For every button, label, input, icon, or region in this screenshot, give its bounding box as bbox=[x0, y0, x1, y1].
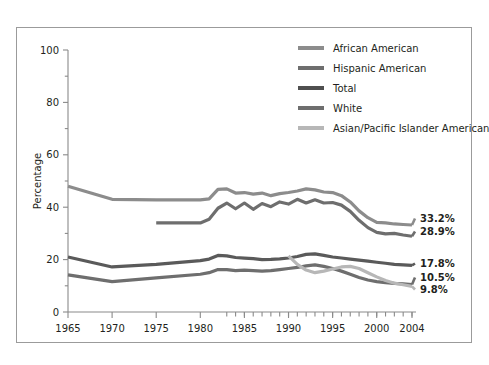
end-label-0: 33.2% bbox=[420, 213, 455, 224]
x-tick-label: 1970 bbox=[99, 323, 124, 334]
y-tick-label: 100 bbox=[40, 45, 59, 56]
y-tick-label: 20 bbox=[46, 254, 59, 265]
end-label-2: 17.8% bbox=[420, 258, 455, 269]
end-label-1: 28.9% bbox=[420, 226, 455, 237]
x-tick-label: 2004 bbox=[399, 323, 424, 334]
end-label-leader-3 bbox=[412, 278, 415, 285]
x-tick-label: 1990 bbox=[276, 323, 301, 334]
y-tick-label: 0 bbox=[53, 307, 59, 318]
figure-root: 0204060801001965197019751980198519901995… bbox=[0, 0, 489, 365]
x-tick-label: 1975 bbox=[143, 323, 168, 334]
x-tick-label: 1985 bbox=[232, 323, 257, 334]
end-label-3: 10.5% bbox=[420, 272, 455, 283]
end-label-leader-0 bbox=[412, 219, 415, 226]
legend-label-0: African American bbox=[333, 43, 419, 54]
end-label-leader-4 bbox=[412, 286, 415, 289]
legend-label-2: Total bbox=[332, 83, 356, 94]
legend-label-3: White bbox=[333, 103, 362, 114]
x-tick-label: 1965 bbox=[55, 323, 80, 334]
x-tick-label: 2000 bbox=[364, 323, 389, 334]
x-tick-label: 1995 bbox=[320, 323, 345, 334]
end-label-leaders bbox=[412, 219, 415, 290]
axes-group: 0204060801001965197019751980198519901995… bbox=[40, 45, 425, 334]
legend-label-4: Asian/Pacific Islander American bbox=[333, 123, 489, 134]
legend-label-1: Hispanic American bbox=[333, 63, 426, 74]
x-tick-label: 1980 bbox=[188, 323, 213, 334]
y-axis-title-group: Percentage bbox=[32, 153, 43, 209]
line-chart: 0204060801001965197019751980198519901995… bbox=[0, 0, 489, 365]
series-group bbox=[68, 186, 412, 286]
y-tick-label: 60 bbox=[46, 149, 59, 160]
series-line-2 bbox=[68, 254, 412, 267]
series-line-1 bbox=[156, 199, 412, 236]
end-label-leader-2 bbox=[412, 264, 415, 266]
legend-group: African AmericanHispanic AmericanTotalWh… bbox=[298, 43, 489, 134]
end-label-4: 9.8% bbox=[420, 284, 448, 295]
y-tick-label: 40 bbox=[46, 202, 59, 213]
y-axis-title: Percentage bbox=[32, 153, 43, 209]
end-labels-group: 33.2%28.9%17.8%10.5%9.8% bbox=[420, 213, 455, 295]
y-tick-label: 80 bbox=[46, 97, 59, 108]
end-label-leader-1 bbox=[412, 232, 415, 237]
